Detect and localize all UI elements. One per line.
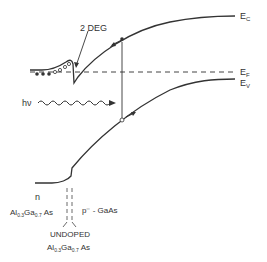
photon-wave-icon bbox=[38, 101, 110, 105]
ionized-donor-icon bbox=[67, 62, 70, 65]
n-region-label: n bbox=[35, 192, 40, 202]
photon-label: hν bbox=[22, 98, 32, 108]
valence-band-curve bbox=[35, 79, 235, 183]
p-region-label: p⁻ - GaAs bbox=[82, 206, 118, 215]
ionized-donor-icon bbox=[58, 68, 61, 71]
ionized-donor-icon bbox=[63, 65, 66, 68]
ef-label: EF bbox=[240, 67, 250, 78]
band-diagram-canvas: 2 DEG EC EF EV hν n Al0.3Ga0.7As p⁻ - Ga… bbox=[0, 0, 267, 262]
band-diagram: 2 DEG EC EF EV hν n Al0.3Ga0.7As p⁻ - Ga… bbox=[0, 0, 267, 262]
n-material-label: Al0.3Ga0.7As bbox=[10, 208, 53, 218]
ev-label: EV bbox=[240, 78, 250, 89]
ionized-donor-icon bbox=[53, 70, 56, 73]
two-deg-arrowhead-icon bbox=[74, 62, 79, 68]
electron-dot-icon bbox=[41, 72, 45, 76]
electron-dot-icon bbox=[47, 72, 51, 76]
two-deg-label: 2 DEG bbox=[80, 23, 107, 33]
electron-arrowhead-icon bbox=[110, 42, 116, 47]
photo-electron-icon bbox=[120, 37, 124, 41]
photon-arrowhead-icon bbox=[109, 100, 116, 106]
undoped-bracket-right bbox=[72, 222, 76, 227]
undoped-material-label: Al0.3Ga0.7As bbox=[47, 243, 90, 253]
electron-dot-icon bbox=[35, 72, 39, 76]
undoped-label: UNDOPED bbox=[50, 230, 90, 239]
two-deg-pointer bbox=[76, 31, 88, 66]
ec-label: EC bbox=[240, 11, 251, 22]
undoped-bracket-left bbox=[63, 222, 67, 227]
conduction-band-curve bbox=[30, 16, 235, 83]
photo-hole-icon bbox=[120, 118, 124, 122]
